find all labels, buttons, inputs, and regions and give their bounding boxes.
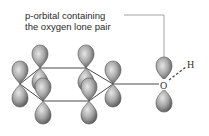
phenol-p-orbital-diagram: O H: [0, 0, 209, 136]
leader-line: [124, 15, 164, 59]
oxygen-label: O: [160, 80, 167, 91]
carbon-p-orbital-left: [12, 61, 28, 107]
hydrogen-label: H: [187, 59, 194, 70]
